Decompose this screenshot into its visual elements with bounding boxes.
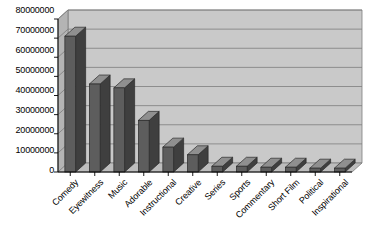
bar (65, 27, 86, 172)
bar (114, 79, 135, 172)
bar (138, 111, 159, 172)
plot-area (0, 0, 392, 239)
bar (89, 75, 110, 172)
bar-chart: 80000000 70000000 60000000 50000000 4000… (0, 0, 392, 239)
